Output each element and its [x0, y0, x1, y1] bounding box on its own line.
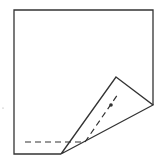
- fold-diagram-svg: [0, 0, 160, 165]
- left-mark: [2, 107, 3, 108]
- point-marker: [109, 103, 113, 107]
- fold-diagram: [0, 0, 160, 165]
- folded-flap: [61, 77, 153, 154]
